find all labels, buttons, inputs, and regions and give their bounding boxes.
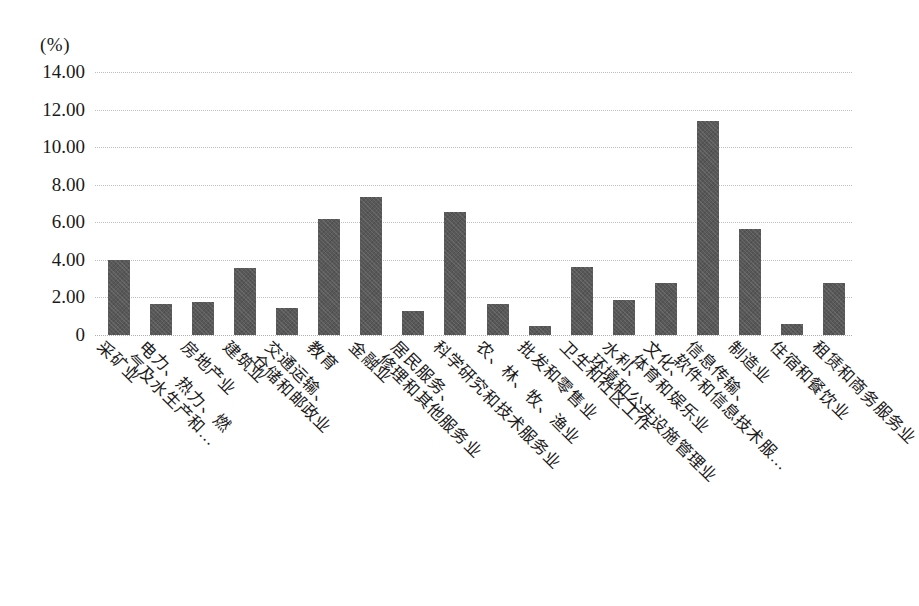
x-axis-tick-line: 教育 — [304, 337, 342, 375]
bar — [108, 260, 130, 335]
bar-series — [95, 72, 852, 335]
y-axis-tick: 2.00 — [0, 286, 95, 308]
bar — [655, 283, 677, 335]
bar — [150, 304, 172, 335]
bar — [234, 268, 256, 335]
plot-area — [95, 72, 852, 335]
y-axis-tick: 10.00 — [0, 136, 95, 158]
y-axis-tick: 4.00 — [0, 249, 95, 271]
y-axis-tick: 12.00 — [0, 99, 95, 121]
bar — [571, 267, 593, 335]
y-axis-tick: 14.00 — [0, 61, 95, 83]
x-axis-tick: 交通运输、仓储和邮政业 — [248, 337, 349, 438]
bar — [529, 326, 551, 335]
y-axis-tick: 6.00 — [0, 211, 95, 233]
bar — [318, 219, 340, 335]
y-axis-tick-labels: 14.0012.0010.008.006.004.002.000 — [0, 0, 95, 606]
y-axis-tick: 0 — [0, 324, 95, 346]
bar — [402, 311, 424, 335]
x-axis-tick-labels: 采矿业电力、热力、燃气及水生产和…房地产业建筑业交通运输、仓储和邮政业教育金融业… — [95, 337, 852, 602]
axis-baseline — [95, 335, 852, 336]
bar — [444, 212, 466, 335]
bar — [823, 283, 845, 335]
bar — [192, 302, 214, 335]
bar — [487, 304, 509, 335]
x-axis-tick: 电力、热力、燃气及水生产和… — [122, 337, 235, 450]
bar — [697, 121, 719, 335]
bar — [276, 308, 298, 335]
bar — [781, 324, 803, 335]
x-axis-tick: 教育 — [304, 337, 342, 375]
bar — [739, 229, 761, 335]
bar — [360, 197, 382, 335]
y-axis-tick: 8.00 — [0, 174, 95, 196]
bar — [613, 300, 635, 335]
